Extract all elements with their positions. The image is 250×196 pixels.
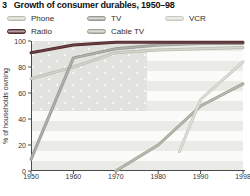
legend-swatch-icon	[87, 16, 106, 21]
y-tick-label: 100	[0, 37, 26, 46]
chart-legend: PhoneTVVCRRadioCable TV	[7, 13, 247, 37]
y-tick-label: 20	[0, 141, 26, 150]
legend-label: VCR	[189, 14, 206, 23]
legend-item-radio: Radio	[7, 26, 87, 37]
y-tick-label: 80	[0, 63, 26, 72]
y-axis-tick-labels: 100806040200	[0, 41, 29, 171]
series-line-vcr-edge	[179, 62, 243, 152]
plot-area	[31, 41, 243, 171]
x-axis-tick-labels: 195019601970198019901998	[31, 173, 243, 183]
series-line-phone-edge	[31, 48, 243, 79]
legend-swatch-icon	[7, 16, 26, 21]
y-tick-label: 0	[0, 167, 26, 176]
legend-swatch-icon	[165, 16, 184, 21]
x-tick-label: 1980	[150, 173, 166, 180]
y-tick-label: 40	[0, 115, 26, 124]
series-line-cable-tv-edge	[116, 84, 243, 171]
legend-swatch-icon	[7, 29, 26, 34]
legend-label: Cable TV	[111, 27, 144, 36]
series-line-vcr	[179, 62, 243, 152]
figure-consumer-durables: 3Growth of consumer durables, 1950–98 Ph…	[0, 0, 250, 196]
legend-label: Phone	[31, 14, 54, 23]
x-tick-label: 1970	[108, 173, 124, 180]
figure-title: 3Growth of consumer durables, 1950–98	[2, 0, 250, 10]
legend-swatch-icon	[87, 29, 106, 34]
legend-item-tv: TV	[87, 13, 165, 24]
legend-label: Radio	[31, 27, 52, 36]
figure-title-text: Growth of consumer durables, 1950–98	[14, 0, 175, 10]
x-tick-label: 1950	[23, 173, 39, 180]
x-tick-label: 1998	[235, 173, 250, 180]
legend-item-phone: Phone	[7, 13, 87, 24]
figure-number: 3	[2, 0, 7, 10]
x-tick-label: 1960	[66, 173, 82, 180]
legend-item-vcr: VCR	[165, 13, 247, 24]
legend-item-cable-tv: Cable TV	[87, 26, 165, 37]
x-tick-label: 1990	[193, 173, 209, 180]
line-chart	[31, 41, 243, 171]
legend-label: TV	[111, 14, 121, 23]
y-tick-label: 60	[0, 89, 26, 98]
